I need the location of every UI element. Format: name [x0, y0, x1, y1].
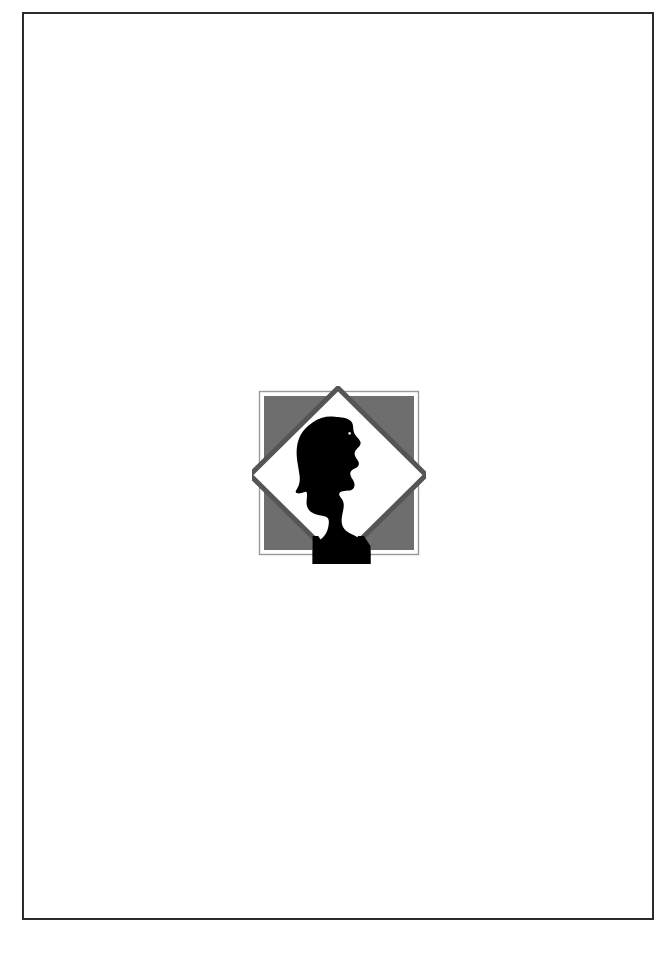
publisher-emblem — [252, 386, 426, 564]
publisher-emblem-graphic — [252, 386, 426, 564]
hair-highlight-dot — [348, 432, 351, 435]
book-page: Publisher Emblem — [0, 0, 672, 953]
